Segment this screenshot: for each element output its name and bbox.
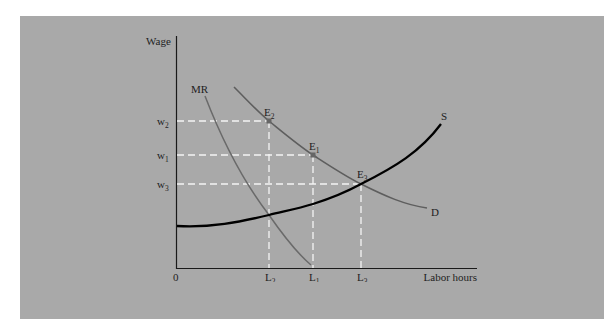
y-tick-w2: w2 bbox=[157, 115, 169, 130]
y-tick-w1: w1 bbox=[157, 149, 169, 164]
x-tick-l2: L2 bbox=[265, 271, 276, 282]
dashed-guides bbox=[177, 121, 361, 268]
x-tick-l3: L3 bbox=[357, 271, 368, 282]
y-axis-label: Wage bbox=[146, 35, 171, 47]
mr-label: MR bbox=[191, 83, 209, 95]
demand-curve bbox=[234, 87, 427, 208]
x-tick-l1: L1 bbox=[309, 271, 320, 282]
s-label: S bbox=[441, 110, 447, 122]
x-axis-label-line1: Labor hours bbox=[424, 271, 477, 282]
y-tick-w3: w3 bbox=[157, 178, 169, 193]
d-label: D bbox=[431, 206, 439, 218]
point-e3-label: E3 bbox=[357, 168, 368, 183]
origin-label: 0 bbox=[173, 271, 179, 282]
